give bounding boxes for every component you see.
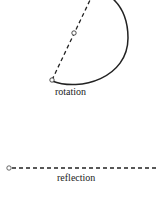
reflection-point	[7, 166, 11, 170]
rotation-mid-point	[72, 31, 76, 35]
rotation-pivot-point	[50, 78, 54, 82]
reflection-figure	[7, 166, 158, 170]
rotation-arc	[52, 0, 128, 85]
reflection-label: reflection	[57, 172, 95, 183]
diagram-canvas	[0, 0, 158, 199]
rotation-dashed-axis	[52, 0, 91, 80]
rotation-label: rotation	[55, 86, 86, 97]
rotation-figure	[50, 0, 128, 85]
